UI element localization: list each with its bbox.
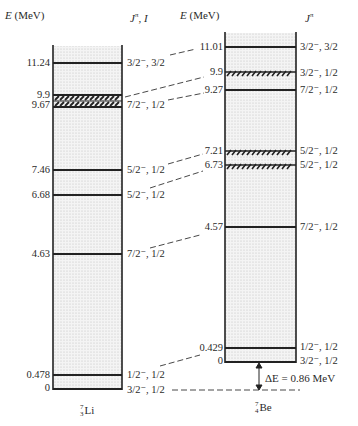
li7-energy-0-478: 0.478 bbox=[26, 369, 50, 381]
li7-jpi-9-67: 7/2⁻, 1/2 bbox=[127, 99, 165, 111]
be7-nuclide-label: 74Be bbox=[255, 401, 272, 415]
delta-e-label: ΔE = 0.86 MeV bbox=[265, 372, 335, 384]
li7-energy-6-68: 6.68 bbox=[32, 189, 50, 201]
be7-energy-6-73: 6.73 bbox=[205, 159, 223, 171]
be7-level-box bbox=[225, 32, 296, 363]
be7-energy-0: 0 bbox=[218, 355, 223, 367]
be7-energy-0-429: 0.429 bbox=[199, 342, 223, 354]
be7-jpi-9-9: 3/2⁻, 1/2 bbox=[300, 67, 338, 79]
be7-energy-4-57: 4.57 bbox=[205, 221, 223, 233]
li7-spin-isospin-header: Jπ, I bbox=[130, 9, 148, 24]
be7-jpi-0: 3/2⁻, 1/2 bbox=[300, 355, 338, 367]
li7-energy-4-63: 4.63 bbox=[32, 248, 50, 260]
be7-jpi-4-57: 7/2⁻, 1/2 bbox=[300, 221, 338, 233]
li7-nuclide-label: 73Li bbox=[80, 404, 94, 418]
be7-energy-11-01: 11.01 bbox=[200, 41, 223, 53]
li7-jpi-11-24: 3/2⁻, 3/2 bbox=[127, 57, 165, 69]
delta-e-arrow bbox=[256, 363, 262, 390]
be7-energy-7-21: 7.21 bbox=[205, 145, 223, 157]
be7-jpi-0-429: 1/2⁻, 1/2 bbox=[300, 341, 338, 353]
be7-spin-header: Jπ bbox=[305, 9, 313, 24]
be7-energy-9-9: 9.9 bbox=[210, 66, 223, 78]
li7-energy-7-46: 7.46 bbox=[32, 164, 50, 176]
li7-jpi-0-478: 1/2⁻, 1/2 bbox=[127, 369, 165, 381]
li7-energy-0: 0 bbox=[45, 382, 50, 394]
li7-energy-9-67: 9.67 bbox=[32, 99, 50, 111]
be7-jpi-6-73: 5/2⁻, 1/2 bbox=[300, 159, 338, 171]
be7-jpi-9-27: 7/2⁻, 1/2 bbox=[300, 84, 338, 96]
be7-energy-9-27: 9.27 bbox=[205, 84, 223, 96]
li7-jpi-6-68: 5/2⁻, 1/2 bbox=[127, 189, 165, 201]
li7-energy-axis-header: E (MeV) bbox=[5, 9, 44, 21]
be7-energy-axis-header: E (MeV) bbox=[180, 9, 219, 21]
be7-jpi-7-21: 5/2⁻, 1/2 bbox=[300, 145, 338, 157]
be7-jpi-11-01: 3/2⁻, 3/2 bbox=[300, 41, 338, 53]
li7-energy-11-24: 11.24 bbox=[27, 57, 50, 69]
li7-jpi-4-63: 7/2⁻, 1/2 bbox=[127, 248, 165, 260]
li7-jpi-7-46: 5/2⁻, 1/2 bbox=[127, 164, 165, 176]
li7-jpi-0: 3/2⁻, 1/2 bbox=[127, 384, 165, 396]
